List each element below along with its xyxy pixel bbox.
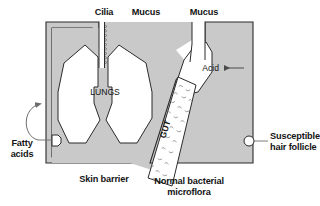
label-cilia: Cilia (95, 7, 115, 17)
pore-marker-icon (52, 135, 61, 146)
label-lungs: LUNGS (90, 87, 120, 97)
label-microflora-line1: Normal bacterial (154, 176, 224, 186)
label-acid: Acid (202, 63, 219, 73)
label-mucus-left: Mucus (132, 7, 160, 17)
diagram-canvas: Cilia Mucus Mucus LUNGS Acid GUT Fatty a… (0, 0, 320, 206)
label-skin-barrier: Skin barrier (79, 174, 129, 184)
trachea-channel (99, 22, 105, 68)
label-fatty-acids-line1: Fatty (11, 138, 33, 148)
oesophagus-opening (190, 22, 205, 62)
label-follicle-line1: Susceptible (270, 131, 320, 141)
label-microflora-line2: microflora (167, 187, 211, 197)
label-follicle-line2: hair follicle (270, 142, 317, 152)
label-mucus-right: Mucus (190, 7, 218, 17)
body-barriers-diagram: Cilia Mucus Mucus LUNGS Acid GUT Fatty a… (0, 0, 320, 206)
label-fatty-acids-line2: acids (11, 149, 34, 159)
follicle-marker-icon (244, 136, 254, 146)
curved-arrow-icon (26, 104, 40, 140)
